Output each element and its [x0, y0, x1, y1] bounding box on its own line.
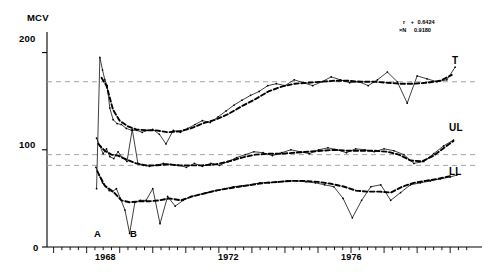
data-point — [131, 129, 133, 131]
data-point — [446, 79, 448, 81]
data-point — [253, 151, 255, 153]
data-point — [152, 188, 154, 190]
data-point — [201, 120, 203, 122]
data-point — [312, 85, 314, 87]
data-point — [324, 184, 326, 186]
data-point — [116, 188, 118, 190]
stat-xn: ×N 0.9180 — [399, 27, 431, 33]
series-line-LL-smooth — [97, 171, 450, 202]
data-point — [194, 124, 196, 126]
data-point — [406, 102, 408, 104]
x-tick-label-1972: 1972 — [218, 252, 239, 262]
data-point — [117, 151, 119, 153]
stat-r-value: 0.6424 — [418, 19, 435, 25]
data-point — [267, 85, 269, 87]
data-point — [349, 82, 351, 84]
data-point — [102, 153, 104, 155]
data-point — [109, 156, 111, 158]
data-point — [433, 153, 435, 155]
data-point — [102, 69, 104, 71]
x-tick-label-1976: 1976 — [341, 252, 362, 262]
data-point — [124, 209, 126, 211]
series-line-T — [97, 57, 456, 188]
data-point — [380, 184, 382, 186]
data-point — [355, 148, 357, 150]
data-point — [250, 95, 252, 97]
data-point — [113, 158, 115, 160]
data-point — [327, 147, 329, 149]
data-point — [400, 192, 402, 194]
data-point — [387, 71, 389, 73]
y-tick-label-200: 200 — [19, 33, 35, 44]
data-point — [426, 78, 428, 80]
data-point — [413, 163, 415, 165]
data-point — [225, 110, 227, 112]
data-point — [95, 166, 97, 168]
data-point — [293, 79, 295, 81]
data-point — [167, 196, 169, 198]
data-point — [333, 186, 335, 188]
data-point — [244, 154, 246, 156]
data-point — [174, 205, 176, 207]
data-point — [126, 161, 128, 163]
series-label-t: T — [452, 55, 458, 66]
annotation-marker-b: B — [130, 228, 137, 239]
series-label-ul: UL — [449, 122, 463, 133]
data-point — [116, 123, 118, 125]
data-point — [241, 99, 243, 101]
data-point — [361, 199, 363, 201]
data-point — [330, 76, 332, 78]
data-point — [367, 85, 369, 87]
series-label-ll: LL — [449, 166, 462, 177]
x-tick-label-1968: 1968 — [95, 252, 116, 262]
stat-r-sign: + — [411, 19, 414, 25]
data-series-layer — [95, 57, 458, 235]
data-point — [346, 152, 348, 154]
data-point — [159, 133, 161, 135]
data-point — [96, 137, 98, 139]
data-point — [141, 131, 143, 133]
data-point — [121, 124, 123, 126]
data-point — [416, 75, 418, 77]
data-point — [272, 155, 274, 157]
data-point — [125, 128, 127, 130]
data-point — [393, 150, 395, 152]
data-point — [275, 83, 277, 85]
data-point — [106, 148, 108, 150]
axes-layer — [42, 32, 482, 253]
data-point — [258, 91, 260, 93]
series-line-UL — [97, 129, 454, 167]
data-point — [352, 217, 354, 219]
data-point — [165, 143, 167, 145]
data-point — [109, 107, 111, 109]
data-point — [370, 186, 372, 188]
data-point — [290, 149, 292, 151]
data-point — [377, 79, 379, 81]
chart-figure: MCV 200 100 0 1968 1972 1976 A B T UL LL… — [0, 0, 495, 275]
y-tick-label-100: 100 — [19, 139, 35, 150]
annotation-marker-a: A — [94, 228, 101, 239]
data-point — [454, 66, 456, 68]
chart-canvas — [0, 0, 495, 275]
data-point — [403, 154, 405, 156]
data-point — [390, 199, 392, 201]
data-point — [443, 145, 445, 147]
stat-xn-value: 0.9180 — [414, 27, 431, 33]
data-point — [96, 188, 98, 190]
data-point — [383, 148, 385, 150]
y-tick-label-0: 0 — [33, 242, 38, 253]
data-point — [194, 163, 196, 165]
y-axis-title: MCV — [27, 12, 49, 23]
data-point — [309, 153, 311, 155]
stat-xn-symbol: ×N — [399, 27, 406, 33]
stat-r-symbol: r — [403, 19, 405, 25]
data-point — [112, 119, 114, 121]
data-point — [219, 164, 221, 166]
data-point — [233, 104, 235, 106]
stat-r: r + 0.6424 — [403, 19, 435, 25]
data-point — [396, 81, 398, 83]
data-point — [99, 57, 101, 59]
data-point — [342, 198, 344, 200]
data-point — [159, 223, 161, 225]
data-point — [186, 166, 188, 168]
